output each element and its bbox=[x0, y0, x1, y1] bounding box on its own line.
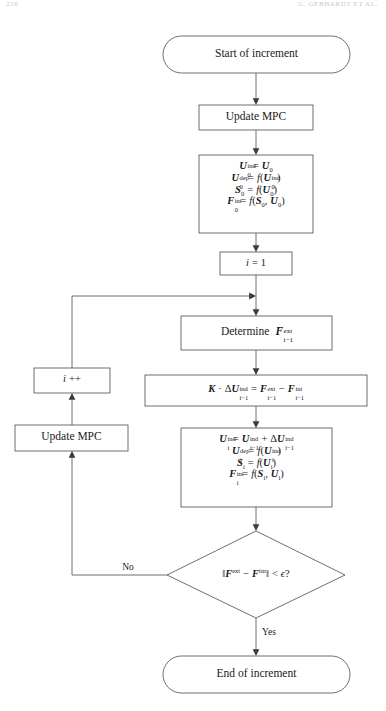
init-line-3: S0=f(U0) bbox=[199, 184, 313, 196]
init-line-2: Udep0=f(Uind0) bbox=[199, 172, 313, 184]
node-increment-i-label: i++ bbox=[34, 373, 110, 385]
figure-page: 226 G. GEBHARDT ET AL. bbox=[0, 0, 386, 711]
node-converged-label: ‖Fext−Fint‖<ϵ? bbox=[176, 568, 336, 580]
node-end-label: End of increment bbox=[163, 667, 350, 680]
update-state-line-4: Finti=f(Si,Ui) bbox=[181, 468, 332, 480]
iter-init-var: i bbox=[246, 257, 249, 268]
node-start-label: Start of increment bbox=[163, 47, 350, 60]
arrowhead-loop-into-trunk bbox=[249, 293, 256, 300]
update-state-line-1: Uindi=Uindi−1+ΔUindi−1 bbox=[181, 433, 332, 445]
node-iter-init-label: i=1 bbox=[220, 257, 292, 269]
init-line-4: Fint0=f(S0,U0) bbox=[199, 195, 313, 207]
arrowhead-update-state-to-converged bbox=[253, 524, 260, 531]
node-solve-label: K·ΔUindi−1=Fexti−1−Finti−1 bbox=[145, 383, 367, 395]
arrowhead-start-to-update-mpc bbox=[253, 98, 260, 105]
node-update-mpc-1-label: Update MPC bbox=[199, 110, 313, 123]
arrowhead-update-mpc-2-to-increment bbox=[69, 393, 76, 400]
arrowhead-init-to-iter-init bbox=[253, 245, 260, 252]
flowchart-canvas bbox=[0, 0, 386, 711]
edge-converged-no-to-update-mpc-2 bbox=[72, 455, 167, 575]
arrowhead-yes-to-end bbox=[253, 649, 260, 656]
node-determine-f-label: DetermineFexti−1 bbox=[181, 325, 332, 338]
iter-init-val: 1 bbox=[261, 257, 266, 268]
increment-op: ++ bbox=[69, 373, 81, 384]
node-update-mpc-2-label: Update MPC bbox=[15, 430, 128, 443]
arrowhead-update-mpc-to-init bbox=[253, 148, 260, 155]
arrowhead-solve-to-update-state bbox=[253, 421, 260, 428]
determine-word: Determine bbox=[221, 325, 270, 337]
node-update-state-label: Uindi=Uindi−1+ΔUindi−1 Udepi=f(Uindi) Si… bbox=[181, 433, 332, 480]
iter-init-eq: = bbox=[252, 257, 258, 268]
update-state-line-3: Si=f(Ui) bbox=[181, 457, 332, 469]
node-init-label: Uind0=U0 Udep0=f(Uind0) S0=f(U0) Fint0=f… bbox=[199, 160, 313, 207]
arrowhead-no-into-update-mpc-2 bbox=[69, 451, 76, 458]
init-line-1: Uind0=U0 bbox=[199, 160, 313, 172]
arrowhead-iter-init-to-determine bbox=[253, 309, 260, 316]
edge-label-no: No bbox=[108, 562, 148, 573]
arrowhead-determine-to-solve bbox=[253, 368, 260, 375]
edge-label-yes: Yes bbox=[262, 627, 302, 638]
increment-var: i bbox=[63, 373, 66, 384]
